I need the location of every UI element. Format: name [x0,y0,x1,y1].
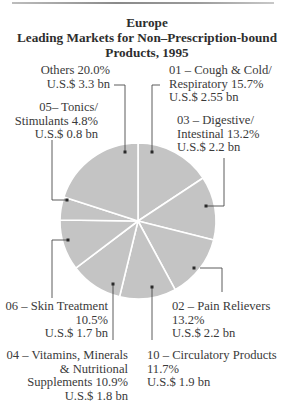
tonics-value: U.S.$ 0.8 bn [4,128,98,142]
others-percent: Others 20.0% [20,64,110,78]
digestive-percent: Intestinal 13.2% [177,128,260,142]
label-digestive: 03 – Digestive/ Intestinal 13.2% U.S.$ 2… [177,114,260,155]
vitamins-percent: Supplements 10.9% [4,376,128,390]
others-value: U.S.$ 3.3 bn [20,78,110,92]
pain-title: 02 – Pain Relievers [172,300,270,314]
label-cough-cold: 01 – Cough & Cold/ Respiratory 15.7% U.S… [169,64,272,105]
cough-value: U.S.$ 2.55 bn [169,91,272,105]
skin-percent: 10.5% [4,314,108,328]
pain-value: U.S.$ 2.2 bn [172,327,270,341]
label-skin-treatment: 06 – Skin Treatment 10.5% U.S.$ 1.7 bn [4,300,108,341]
pain-percent: 13.2% [172,314,270,328]
vitamins-title-cont: & Nutritional [4,363,128,377]
skin-value: U.S.$ 1.7 bn [4,327,108,341]
label-pain-relievers: 02 – Pain Relievers 13.2% U.S.$ 2.2 bn [172,300,270,341]
label-tonics: 05– Tonics/ Stimulants 4.8% U.S.$ 0.8 bn [4,101,98,142]
cough-title: 01 – Cough & Cold/ [169,64,272,78]
label-vitamins: 04 – Vitamins, Minerals & Nutritional Su… [4,349,128,403]
circulatory-title: 10 – Circulatory Products [147,349,277,363]
vitamins-value: U.S.$ 1.8 bn [4,390,128,404]
label-others: Others 20.0% U.S.$ 3.3 bn [20,64,110,91]
tonics-percent: Stimulants 4.8% [4,115,98,129]
circulatory-percent: 11.7% [147,363,277,377]
label-circulatory: 10 – Circulatory Products 11.7% U.S.$ 1.… [147,349,277,390]
tonics-title: 05– Tonics/ [4,101,98,115]
digestive-value: U.S.$ 2.2 bn [177,141,260,155]
cough-percent: Respiratory 15.7% [169,78,272,92]
skin-title: 06 – Skin Treatment [4,300,108,314]
circulatory-value: U.S.$ 1.9 bn [147,376,277,390]
digestive-title: 03 – Digestive/ [177,114,260,128]
vitamins-title: 04 – Vitamins, Minerals [4,349,128,363]
